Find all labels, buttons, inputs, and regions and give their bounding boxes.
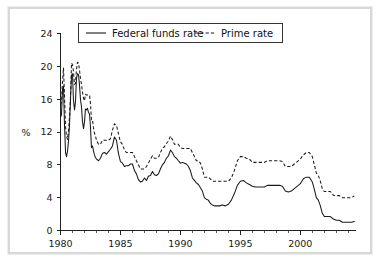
data-series-group — [61, 62, 355, 222]
legend-label-prime-rate: Prime rate — [221, 28, 273, 39]
y-tick-label: 8 — [46, 159, 52, 170]
chart-legend: Federal funds rate Prime rate — [79, 24, 283, 43]
y-tick-label: 0 — [46, 225, 52, 236]
legend-label-federal-funds-rate: Federal funds rate — [112, 28, 203, 39]
x-tick-label: 1980 — [48, 238, 72, 249]
y-tick-label: 20 — [40, 61, 52, 72]
y-tick-label: 16 — [40, 94, 52, 105]
y-tick-label: 4 — [46, 192, 52, 203]
x-tick-label: 1985 — [108, 238, 132, 249]
x-tick-label: 1995 — [228, 238, 252, 249]
x-tick-label: 2000 — [288, 238, 312, 249]
x-axis-ticks: 19801985199019952000 — [48, 231, 312, 249]
interest-rates-line-chart: 04812162024 19801985199019952000 % Feder… — [10, 9, 370, 252]
series-federal-funds-rate — [61, 74, 355, 223]
series-prime-rate — [61, 62, 355, 197]
y-tick-label: 24 — [40, 28, 52, 39]
x-tick-label: 1990 — [168, 238, 192, 249]
y-axis-title: % — [21, 127, 30, 138]
y-tick-label: 12 — [40, 126, 52, 137]
axes — [61, 34, 356, 231]
y-axis-ticks: 04812162024 — [40, 28, 60, 236]
figure-container: 04812162024 19801985199019952000 % Feder… — [0, 0, 380, 267]
figure-frame: 04812162024 19801985199019952000 % Feder… — [7, 6, 373, 255]
